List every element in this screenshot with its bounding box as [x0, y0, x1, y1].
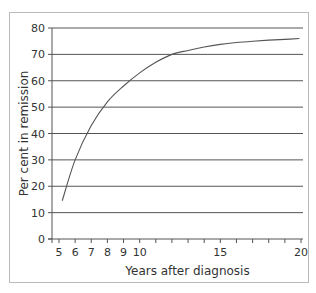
- y-tick-label: 40: [31, 128, 45, 141]
- x-axis-title: Years after diagnosis: [124, 264, 249, 278]
- x-tick-label: 8: [104, 246, 111, 259]
- y-tick-label: 60: [31, 75, 45, 88]
- remission-line-chart: 0102030405060708056789101520Years after …: [0, 0, 316, 293]
- y-axis-title: Per cent in remission: [17, 71, 31, 197]
- x-tick-label: 20: [294, 246, 308, 259]
- x-tick-label: 15: [213, 246, 227, 259]
- x-tick-label: 10: [133, 246, 147, 259]
- x-tick-label: 9: [120, 246, 127, 259]
- y-tick-label: 0: [38, 233, 45, 246]
- y-tick-label: 50: [31, 101, 45, 114]
- y-tick-label: 30: [31, 154, 45, 167]
- remission-curve: [62, 39, 299, 201]
- x-tick-label: 6: [72, 246, 79, 259]
- y-tick-label: 70: [31, 48, 45, 61]
- x-tick-label: 7: [88, 246, 95, 259]
- y-tick-label: 10: [31, 207, 45, 220]
- y-tick-label: 80: [31, 22, 45, 35]
- y-tick-label: 20: [31, 180, 45, 193]
- x-tick-label: 5: [56, 246, 63, 259]
